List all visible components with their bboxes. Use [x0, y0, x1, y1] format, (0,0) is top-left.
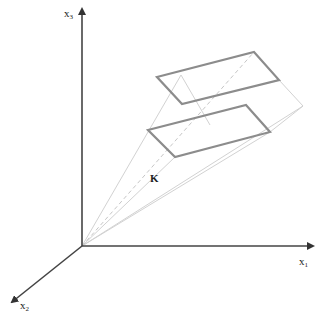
axis-label-x2-sub: 2 — [26, 305, 30, 313]
cone-label-k: K — [150, 172, 159, 184]
axis-label-x1: x1 — [299, 256, 308, 269]
cone-diagram — [0, 0, 317, 319]
axis-x2 — [12, 246, 82, 302]
axis-label-x3-sub: 3 — [70, 13, 74, 21]
axis-label-x3: x3 — [64, 8, 73, 21]
lower-rectangle — [148, 105, 270, 157]
axis-label-x2: x2 — [20, 300, 29, 313]
upper-rectangle — [157, 52, 279, 104]
axis-label-x1-sub: 1 — [305, 261, 309, 269]
